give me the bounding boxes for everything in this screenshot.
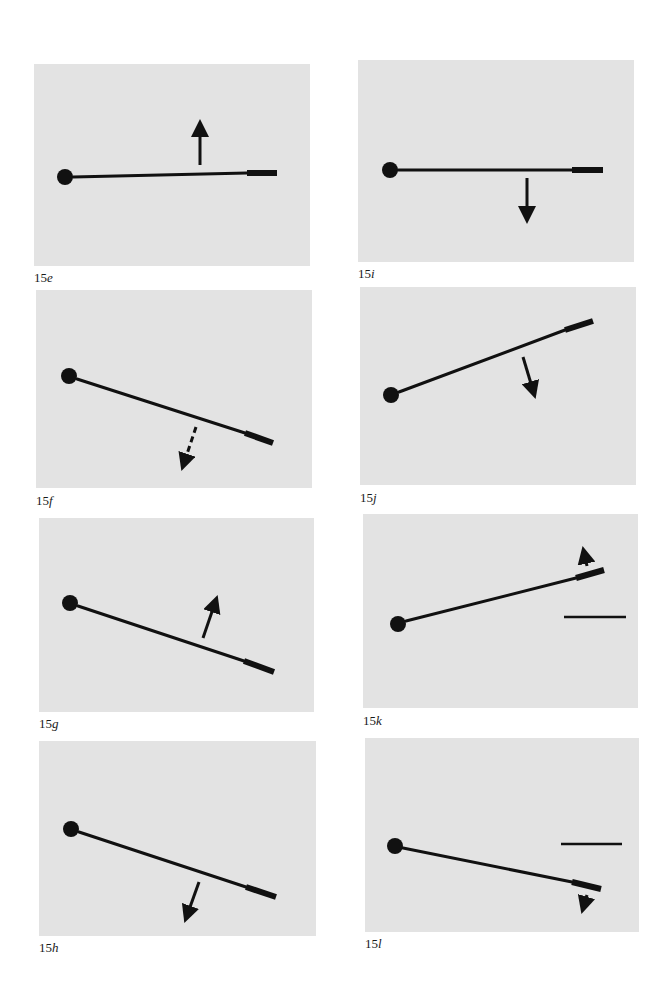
panel-15i [358,60,634,262]
panel-15g [39,518,314,712]
panel-number: 15 [34,270,47,285]
panel-number: 15 [360,490,373,505]
panel-label-15i: 15i [358,266,375,282]
panel-letter: e [47,270,53,285]
panel-letter: f [49,493,53,508]
panel-15l [365,738,639,932]
panel-15k [363,514,638,708]
panel-number: 15 [39,716,52,731]
panel-15j [360,287,636,485]
panel-number: 15 [36,493,49,508]
panel-letter: i [371,266,375,281]
panel-number: 15 [358,266,371,281]
panel-15f [36,290,312,488]
panel-letter: k [376,713,382,728]
panel-label-15l: 15l [365,936,382,952]
panel-label-15g: 15g [39,716,59,732]
panel-number: 15 [39,940,52,955]
panel-label-15f: 15f [36,493,53,509]
panel-letter: h [52,940,59,955]
panel-15e [34,64,310,266]
panel-15h [39,741,316,936]
panel-letter: g [52,716,59,731]
panel-letter: l [378,936,382,951]
panel-label-15j: 15j [360,490,377,506]
panel-number: 15 [365,936,378,951]
panel-number: 15 [363,713,376,728]
panel-label-15h: 15h [39,940,59,956]
panel-label-15k: 15k [363,713,382,729]
panel-letter: j [373,490,377,505]
panel-label-15e: 15e [34,270,53,286]
